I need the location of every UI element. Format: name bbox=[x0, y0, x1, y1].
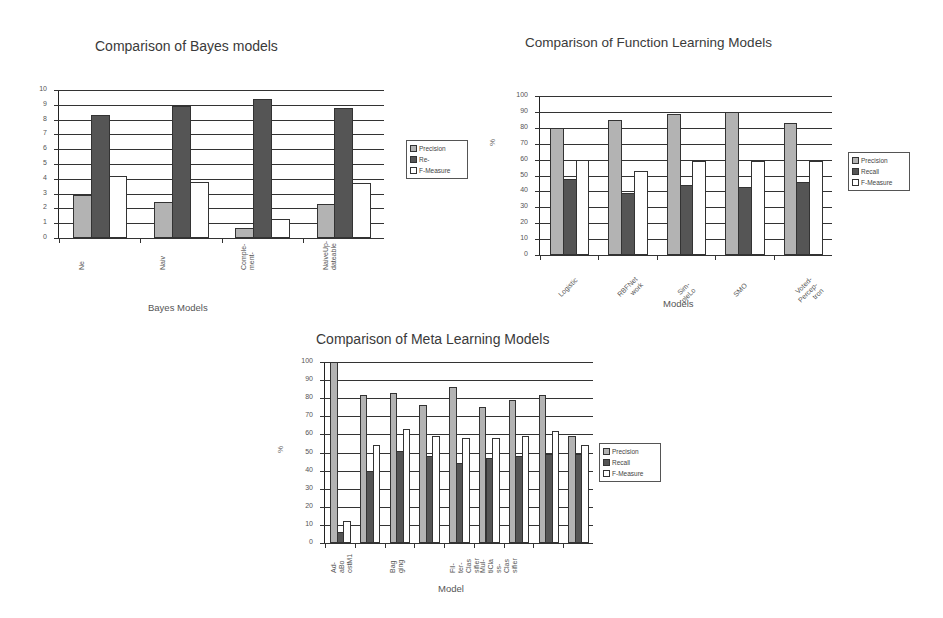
y-tick-label: 0 bbox=[295, 538, 313, 545]
legend-label: Precision bbox=[419, 145, 446, 152]
x-tick-mark bbox=[140, 238, 141, 243]
y-tick-label: 8 bbox=[29, 115, 47, 122]
x-tick-mark bbox=[355, 543, 356, 548]
y-tick-mark bbox=[535, 176, 540, 177]
gridline bbox=[540, 112, 832, 113]
x-tick-mark bbox=[444, 543, 445, 548]
y-tick-mark bbox=[320, 489, 325, 490]
y-tick-label: 90 bbox=[295, 375, 313, 382]
y-tick-label: 3 bbox=[29, 189, 47, 196]
bar-fmeasure bbox=[373, 445, 381, 543]
y-tick-label: 2 bbox=[29, 203, 47, 210]
bar-fmeasure bbox=[462, 438, 470, 543]
y-tick-label: 100 bbox=[295, 357, 313, 364]
y-tick-label: 80 bbox=[510, 123, 528, 130]
legend-label: Re- bbox=[419, 156, 429, 163]
meta-chart-title: Comparison of Meta Learning Models bbox=[316, 331, 549, 347]
x-tick-label: Bag ging bbox=[389, 560, 405, 573]
y-tick-label: 50 bbox=[510, 171, 528, 178]
legend-item: Precision bbox=[410, 143, 464, 154]
legend-item: Re- bbox=[410, 154, 464, 165]
legend-item: Recall bbox=[852, 166, 906, 177]
function-chart: Comparison of Function Learning Models %… bbox=[480, 30, 943, 320]
legend-swatch bbox=[852, 157, 859, 164]
y-tick-mark bbox=[320, 362, 325, 363]
x-tick-label: Naiv bbox=[159, 256, 167, 270]
y-tick-label: 100 bbox=[510, 91, 528, 98]
function-chart-title: Comparison of Function Learning Models bbox=[525, 35, 772, 50]
bar-fmeasure bbox=[522, 436, 530, 543]
x-tick-mark bbox=[303, 238, 304, 243]
bar-recall bbox=[738, 187, 752, 255]
gridline bbox=[540, 255, 832, 256]
x-tick-mark bbox=[59, 238, 60, 243]
x-tick-label: Mul- tiCla ss- Clas sifier bbox=[479, 558, 519, 573]
x-tick-mark bbox=[474, 543, 475, 548]
bar-precision bbox=[667, 114, 681, 256]
y-tick-label: 10 bbox=[29, 85, 47, 92]
x-tick-mark bbox=[715, 255, 716, 260]
legend-label: Precision bbox=[861, 157, 888, 164]
y-tick-label: 40 bbox=[510, 186, 528, 193]
bar-precision bbox=[330, 362, 338, 543]
y-tick-label: 10 bbox=[510, 234, 528, 241]
bayes-plot-area: 012345678910NeNaivComple- ment-NaiveUp- … bbox=[58, 90, 384, 238]
y-tick-label: 60 bbox=[510, 155, 528, 162]
bar-fmeasure bbox=[403, 429, 411, 543]
y-tick-mark bbox=[535, 223, 540, 224]
x-tick-label: Comple- ment- bbox=[240, 244, 256, 270]
x-tick-label: Ne bbox=[78, 261, 86, 270]
bar-fmeasure bbox=[432, 436, 440, 543]
y-tick-mark bbox=[320, 453, 325, 454]
x-tick-label: NaiveUp- dateable bbox=[322, 241, 338, 270]
y-tick-mark bbox=[54, 105, 59, 106]
y-tick-mark bbox=[535, 96, 540, 97]
y-tick-mark bbox=[320, 525, 325, 526]
legend-item: F-Measure bbox=[410, 165, 464, 176]
legend-label: Recall bbox=[612, 459, 630, 466]
legend-swatch bbox=[603, 459, 610, 466]
legend-swatch bbox=[852, 168, 859, 175]
x-tick-label: Ad- aBo ostM1 bbox=[330, 554, 354, 573]
y-tick-mark bbox=[54, 194, 59, 195]
y-tick-mark bbox=[320, 507, 325, 508]
legend-swatch bbox=[410, 167, 417, 174]
x-tick-mark bbox=[598, 255, 599, 260]
bar-fmeasure bbox=[492, 438, 500, 543]
y-tick-label: 9 bbox=[29, 100, 47, 107]
meta-y-axis-title: % bbox=[276, 446, 285, 453]
legend-item: F-Measure bbox=[852, 177, 906, 188]
function-x-axis-title: Models bbox=[663, 298, 694, 309]
y-tick-label: 6 bbox=[29, 144, 47, 151]
meta-chart: Comparison of Meta Learning Models % 010… bbox=[270, 325, 690, 615]
y-tick-mark bbox=[535, 144, 540, 145]
y-tick-label: 60 bbox=[295, 429, 313, 436]
y-tick-label: 20 bbox=[510, 218, 528, 225]
bar-precision bbox=[235, 228, 254, 238]
x-tick-mark bbox=[325, 543, 326, 548]
y-tick-label: 4 bbox=[29, 174, 47, 181]
function-legend: PrecisionRecallF-Measure bbox=[848, 152, 910, 191]
legend-swatch bbox=[852, 179, 859, 186]
legend-item: Recall bbox=[603, 457, 657, 468]
x-tick-mark bbox=[414, 543, 415, 548]
bar-recall bbox=[796, 182, 810, 255]
y-tick-mark bbox=[320, 471, 325, 472]
legend-swatch bbox=[603, 448, 610, 455]
y-tick-label: 0 bbox=[29, 233, 47, 240]
y-tick-mark bbox=[535, 160, 540, 161]
x-tick-mark bbox=[222, 238, 223, 243]
x-tick-mark bbox=[504, 543, 505, 548]
y-tick-mark bbox=[535, 191, 540, 192]
x-tick-mark bbox=[563, 543, 564, 548]
bar-precision bbox=[725, 112, 739, 255]
bayes-chart-title: Comparison of Bayes models bbox=[95, 38, 278, 54]
meta-x-axis-title: Model bbox=[438, 583, 464, 594]
gridline bbox=[540, 96, 832, 97]
gridline bbox=[325, 362, 593, 363]
y-tick-label: 10 bbox=[295, 520, 313, 527]
y-tick-mark bbox=[535, 112, 540, 113]
y-tick-mark bbox=[320, 380, 325, 381]
y-tick-label: 7 bbox=[29, 129, 47, 136]
legend-swatch bbox=[603, 470, 610, 477]
